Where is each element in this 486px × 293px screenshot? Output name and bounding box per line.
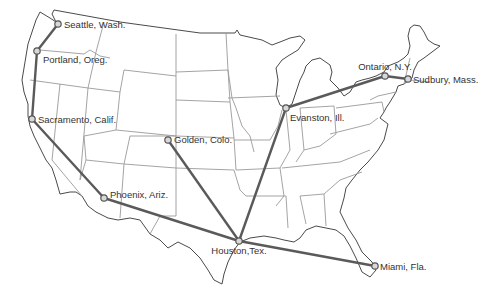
city-marker-icon xyxy=(101,195,107,201)
city-houston: Houston,Tex. xyxy=(211,238,266,256)
city-marker-icon xyxy=(382,73,388,79)
city-label: Miami, Fla. xyxy=(380,261,426,272)
city-label: Evanston, Ill. xyxy=(290,112,344,123)
city-marker-icon xyxy=(55,21,61,27)
state-border xyxy=(80,130,116,180)
city-marker-icon xyxy=(29,116,35,122)
city-seattle: Seattle, Wash. xyxy=(55,19,126,30)
route-houston-evanston xyxy=(239,108,286,241)
city-label: Ontario, N.Y. xyxy=(358,61,412,72)
state-border xyxy=(236,168,284,206)
city-label: Sudbury, Mass. xyxy=(413,74,478,85)
cities: Seattle, Wash.Portland, Oreg.Sacramento,… xyxy=(29,19,478,272)
state-border xyxy=(282,150,370,168)
city-marker-icon xyxy=(405,76,411,82)
city-marker-icon xyxy=(236,238,242,244)
city-marker-icon xyxy=(283,105,289,111)
city-sudbury: Sudbury, Mass. xyxy=(405,74,478,85)
city-label: Portland, Oreg. xyxy=(43,54,107,65)
route-phoenix-houston xyxy=(104,198,239,241)
state-border xyxy=(120,34,176,92)
state-border xyxy=(228,96,280,98)
state-border xyxy=(30,80,120,92)
city-marker-icon xyxy=(34,48,40,54)
state-border xyxy=(176,100,234,138)
route-seattle-portland xyxy=(37,24,58,51)
city-label: Seattle, Wash. xyxy=(64,19,125,30)
city-label: Houston,Tex. xyxy=(211,245,266,256)
city-phoenix: Phoenix, Ariz. xyxy=(101,189,168,201)
city-sacramento: Sacramento, Calif. xyxy=(29,114,116,125)
city-label: Golden, Colo. xyxy=(174,134,232,145)
city-golden: Golden, Colo. xyxy=(165,134,232,145)
us-route-map: Seattle, Wash.Portland, Oreg.Sacramento,… xyxy=(0,0,486,293)
city-miami: Miami, Fla. xyxy=(372,261,427,272)
state-border xyxy=(52,84,82,196)
state-border xyxy=(150,168,176,234)
city-ontario: Ontario, N.Y. xyxy=(358,61,412,79)
route-sacramento-phoenix xyxy=(32,119,104,198)
state-border xyxy=(300,172,362,226)
route-golden-houston xyxy=(168,140,239,241)
city-marker-icon xyxy=(372,263,378,269)
city-marker-icon xyxy=(165,137,171,143)
state-border xyxy=(176,168,246,196)
state-border xyxy=(176,70,230,102)
state-border xyxy=(336,102,384,112)
state-border xyxy=(116,76,176,136)
city-label: Phoenix, Ariz. xyxy=(110,189,168,200)
city-label: Sacramento, Calif. xyxy=(38,114,116,125)
route-portland-sacramento xyxy=(32,51,37,119)
